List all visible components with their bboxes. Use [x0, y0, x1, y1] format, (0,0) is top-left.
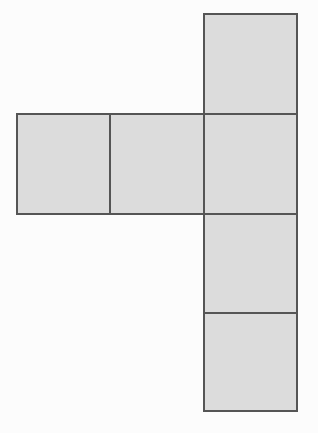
square-middle	[110, 114, 204, 214]
cube-net-diagram	[0, 0, 318, 433]
cube-net-svg	[0, 0, 318, 433]
square-top	[204, 14, 297, 114]
square-center	[204, 114, 297, 214]
square-left	[17, 114, 110, 214]
square-lower	[204, 214, 297, 313]
square-bottom	[204, 313, 297, 411]
